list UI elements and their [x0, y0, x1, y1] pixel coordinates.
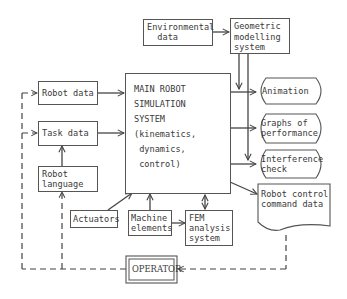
main-line-3: SYSTEM — [134, 112, 165, 127]
actuators-box: Actuators — [70, 210, 118, 228]
main-simulation-box: MAIN ROBOT SIMULATION SYSTEM (kinematics… — [125, 73, 231, 194]
robot-language-box: Robot language — [38, 166, 98, 192]
environmental-data-box: Environmental data — [143, 19, 213, 46]
main-line-2: SIMULATION — [134, 97, 186, 112]
animation-label: Animation — [262, 86, 309, 96]
geometric-modelling-box: Geometric modelling system — [230, 18, 290, 54]
graphs-of-performance-label: Graphs of performance — [261, 118, 318, 138]
fem-analysis-box: FEM analysis system — [185, 210, 233, 246]
task-data-box: Task data — [38, 121, 98, 146]
operator-label: OPERATOR — [132, 264, 181, 274]
main-line-6: control) — [134, 157, 181, 172]
main-line-4: (kinematics, — [134, 127, 196, 142]
interference-check-label: Interference check — [261, 154, 323, 174]
main-line-1: MAIN ROBOT — [134, 82, 186, 97]
main-line-5: dynamics, — [134, 142, 186, 157]
machine-elements-box: Machine elements — [128, 210, 172, 236]
robot-data-box: Robot data — [38, 81, 98, 105]
robot-control-command-label: Robot control command data — [261, 189, 328, 209]
